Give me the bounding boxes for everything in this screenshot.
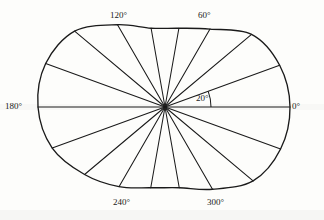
polar-plot-canvas bbox=[0, 0, 324, 220]
axis-label-180deg: 180° bbox=[5, 102, 22, 111]
radial-spoke-320deg bbox=[165, 107, 253, 181]
axis-label-300deg: 300° bbox=[207, 198, 224, 207]
axis-label-60deg: 60° bbox=[198, 11, 211, 20]
radial-spoke-340deg bbox=[165, 107, 281, 149]
radial-spokes-group bbox=[38, 25, 290, 190]
radial-spoke-20deg bbox=[165, 65, 280, 107]
axis-label-240deg: 240° bbox=[113, 198, 130, 207]
polar-diagram-figure: 180° 0° 60° 120° 240° 300° 20° bbox=[0, 0, 324, 220]
radial-spoke-160deg bbox=[46, 64, 165, 107]
radial-spoke-220deg bbox=[85, 107, 165, 174]
angle-arc-label-20deg: 20° bbox=[196, 94, 209, 103]
radial-spoke-200deg bbox=[52, 107, 165, 148]
radial-spoke-140deg bbox=[75, 31, 165, 107]
axis-label-0deg: 0° bbox=[292, 102, 300, 111]
axis-label-120deg: 120° bbox=[110, 11, 127, 20]
